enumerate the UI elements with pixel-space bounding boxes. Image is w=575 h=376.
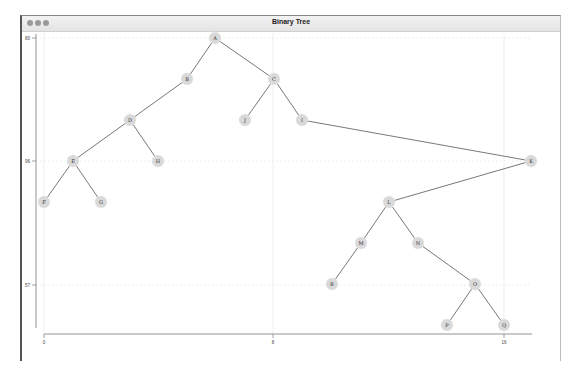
tree-edge — [332, 243, 361, 284]
tree-node-m[interactable]: M — [355, 237, 367, 249]
tree-node-p[interactable]: P — [441, 319, 453, 331]
tree-edge — [274, 79, 302, 120]
tree-node-r[interactable]: R — [326, 278, 338, 290]
x-tick-label: 8 — [272, 340, 275, 345]
svg-text:Q: Q — [502, 322, 506, 328]
tree-node-k[interactable]: K — [525, 155, 537, 167]
svg-text:A: A — [212, 35, 217, 41]
tree-node-c[interactable]: C — [268, 73, 280, 85]
svg-text:D: D — [128, 117, 132, 123]
nodes: ABCDJIEHKFGLMNROPQ — [38, 32, 537, 331]
tree-edge — [389, 161, 531, 202]
tree-node-g[interactable]: G — [95, 196, 107, 208]
tree-node-b[interactable]: B — [181, 73, 193, 85]
svg-text:C: C — [272, 76, 276, 82]
edges — [44, 38, 531, 325]
tree-edge — [130, 79, 187, 120]
svg-text:R: R — [330, 281, 334, 287]
tree-node-a[interactable]: A — [209, 32, 221, 44]
y-tick-label: 57 — [25, 283, 31, 288]
tree-node-j[interactable]: J — [239, 114, 251, 126]
y-tick-label: 96 — [25, 159, 31, 164]
tree-edge — [418, 243, 475, 284]
y-tick-label: 80 — [25, 36, 31, 41]
tree-node-f[interactable]: F — [38, 196, 50, 208]
svg-text:E: E — [71, 158, 75, 164]
tree-edge — [44, 161, 73, 202]
svg-text:M: M — [358, 240, 363, 246]
tree-node-o[interactable]: O — [469, 278, 481, 290]
tree-node-i[interactable]: I — [296, 114, 308, 126]
tree-edge — [130, 120, 158, 161]
tree-plot: 8096570816ABCDJIEHKFGLMNROPQ — [0, 0, 575, 376]
tree-edge — [389, 202, 418, 243]
svg-text:N: N — [416, 240, 421, 246]
tree-edge — [73, 161, 101, 202]
x-tick-label: 0 — [43, 340, 46, 345]
tree-node-q[interactable]: Q — [498, 319, 510, 331]
tree-edge — [302, 120, 531, 161]
tree-node-d[interactable]: D — [124, 114, 136, 126]
svg-text:J: J — [243, 117, 246, 124]
svg-text:F: F — [42, 199, 46, 205]
tree-node-e[interactable]: E — [67, 155, 79, 167]
tree-node-l[interactable]: L — [383, 196, 395, 208]
svg-text:H: H — [156, 158, 161, 164]
x-tick-label: 16 — [501, 340, 507, 345]
tree-edge — [361, 202, 389, 243]
tree-edge — [73, 120, 130, 161]
tree-node-h[interactable]: H — [152, 155, 164, 167]
tree-node-n[interactable]: N — [412, 237, 424, 249]
svg-text:G: G — [99, 199, 103, 205]
tree-edge — [187, 38, 215, 79]
svg-text:B: B — [185, 76, 189, 82]
tree-edge — [215, 38, 274, 79]
svg-text:O: O — [473, 281, 477, 287]
tree-edge — [447, 284, 475, 325]
tree-edge — [475, 284, 504, 325]
tree-edge — [245, 79, 274, 120]
svg-text:I: I — [301, 117, 303, 123]
svg-text:K: K — [529, 158, 533, 164]
